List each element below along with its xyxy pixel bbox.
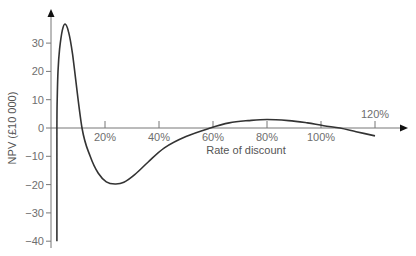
y-tick-label: −40 [25,235,44,247]
y-tick-label: 20 [32,65,44,77]
x-tick-label: 40% [148,131,170,143]
x-tick-label: 120% [361,108,389,120]
x-tick-label: 80% [256,131,278,143]
y-axis-title: NPV (£10 000) [6,92,18,165]
y-tick-label: −30 [25,207,44,219]
y-tick-label: 0 [38,122,44,134]
x-ticks: 20%40%60%80%100%120% [94,108,389,143]
x-axis-title: Rate of discount [206,144,286,156]
y-tick-label: 30 [32,37,44,49]
x-tick-label: 60% [202,131,224,143]
npv-chart: 3020100−10−20−30−40 20%40%60%80%100%120%… [0,0,416,256]
y-ticks: 3020100−10−20−30−40 [25,37,51,247]
y-axis-arrow-icon [48,9,55,17]
x-axis-arrow-icon [400,125,408,132]
y-tick-label: −10 [25,150,44,162]
x-tick-label: 100% [307,131,335,143]
y-tick-label: −20 [25,179,44,191]
x-tick-label: 20% [94,131,116,143]
y-tick-label: 10 [32,94,44,106]
